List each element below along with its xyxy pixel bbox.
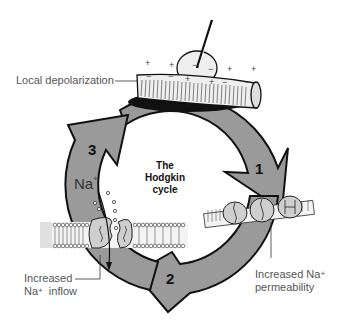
title-line-3: cycle bbox=[130, 184, 200, 196]
label-increased: Increased bbox=[24, 272, 77, 285]
label-local-depolarization: Local depolarization bbox=[16, 74, 114, 87]
cycle-title: The Hodgkin cycle bbox=[130, 160, 200, 196]
svg-text:−: − bbox=[245, 77, 250, 87]
title-line-2: Hodgkin bbox=[130, 172, 200, 184]
svg-text:+: + bbox=[227, 64, 232, 74]
axon-illustration: ++ ++ ++ −− −− −− bbox=[115, 20, 261, 112]
svg-text:−: − bbox=[168, 71, 173, 81]
label-increased-na-permeability: Increased Na+ permeability bbox=[255, 268, 325, 294]
label-increased-na-line: Increased Na+ bbox=[255, 268, 325, 281]
svg-text:+: + bbox=[169, 60, 174, 70]
svg-text:+: + bbox=[251, 64, 256, 74]
label-increased-na-inflow: Increased Na+ inflow bbox=[24, 272, 77, 298]
svg-text:−: − bbox=[222, 77, 227, 87]
svg-text:−: − bbox=[192, 60, 197, 70]
na-ion-text: Na bbox=[74, 175, 93, 192]
step-number-1: 1 bbox=[255, 160, 263, 177]
step-number-3: 3 bbox=[88, 141, 96, 158]
label-permeability: permeability bbox=[255, 281, 325, 294]
na-ion-label: Na+ bbox=[74, 175, 98, 192]
arrow-step-3 bbox=[65, 115, 158, 290]
title-line-1: The bbox=[130, 160, 200, 172]
na-ion-charge: + bbox=[93, 174, 98, 183]
svg-text:−: − bbox=[146, 71, 151, 81]
svg-text:−: − bbox=[208, 64, 213, 74]
svg-text:+: + bbox=[185, 74, 190, 84]
step-number-2: 2 bbox=[166, 270, 174, 287]
svg-text:+: + bbox=[209, 77, 214, 87]
svg-text:+: + bbox=[145, 58, 150, 68]
label-na-inflow-line: Na+ inflow bbox=[24, 285, 77, 298]
